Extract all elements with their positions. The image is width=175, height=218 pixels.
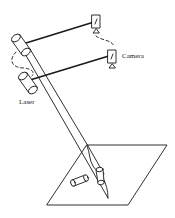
laser-emitter-2 <box>17 71 39 96</box>
laser-label: Laser <box>19 98 35 106</box>
laser-camera-diagram <box>0 0 175 218</box>
camera-1 <box>92 15 100 33</box>
object-cylinder-2 <box>96 167 105 185</box>
camera-label: Camera <box>122 52 144 60</box>
laser-beam <box>24 49 108 198</box>
object-cylinder-1 <box>70 174 89 187</box>
laser-emitter-1 <box>10 33 32 58</box>
dashed-link-cameras <box>96 36 114 46</box>
camera-2 <box>108 50 116 68</box>
link-laser1-camera1 <box>26 22 94 43</box>
link-laser2-camera2 <box>30 55 112 80</box>
